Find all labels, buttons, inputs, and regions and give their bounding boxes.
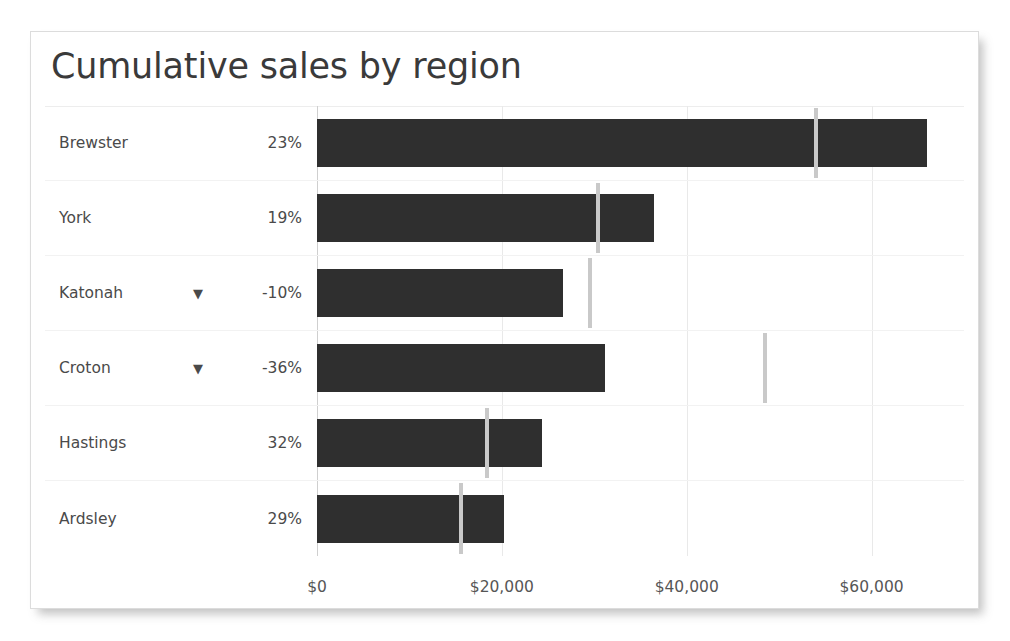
row-delta-value: -10% — [230, 284, 302, 302]
table-row[interactable]: Ardsley29% — [45, 481, 964, 556]
x-tick-label: $40,000 — [655, 578, 719, 596]
bar-track — [317, 256, 964, 330]
table-row[interactable]: Katonah▼-10% — [45, 256, 964, 331]
page-title: Cumulative sales by region — [51, 46, 522, 86]
table-row[interactable]: Brewster23% — [45, 106, 964, 181]
bar-hastings[interactable] — [317, 419, 542, 467]
table-row[interactable]: Croton▼-36% — [45, 331, 964, 406]
screenshot-root: Cumulative sales by region Brewster23%Yo… — [0, 0, 1010, 641]
trend-down-arrow-icon: ▼ — [193, 287, 203, 300]
bar-brewster[interactable] — [317, 119, 927, 167]
row-delta-value: -36% — [230, 359, 302, 377]
target-marker-ardsley — [459, 483, 463, 554]
row-label-brewster: Brewster — [59, 134, 128, 152]
row-delta-value: 23% — [230, 134, 302, 152]
row-label-ardsley: Ardsley — [59, 510, 117, 528]
bar-track — [317, 181, 964, 255]
table-row[interactable]: Hastings32% — [45, 406, 964, 481]
table-row[interactable]: York19% — [45, 181, 964, 256]
target-marker-croton — [763, 333, 767, 403]
row-delta-value: 32% — [230, 434, 302, 452]
x-tick-label: $0 — [307, 578, 327, 596]
bar-track — [317, 331, 964, 405]
bar-track — [317, 106, 964, 180]
x-tick-label: $60,000 — [840, 578, 904, 596]
bar-york[interactable] — [317, 194, 654, 242]
target-marker-hastings — [485, 408, 489, 478]
row-label-hastings: Hastings — [59, 434, 126, 452]
bar-ardsley[interactable] — [317, 495, 504, 543]
row-label-croton: Croton — [59, 359, 111, 377]
chart-card: Cumulative sales by region Brewster23%Yo… — [30, 31, 979, 609]
row-delta-value: 19% — [230, 209, 302, 227]
x-axis: $0$20,000$40,000$60,000 — [317, 556, 964, 616]
bar-track — [317, 406, 964, 480]
row-delta-value: 29% — [230, 510, 302, 528]
bar-rows: Brewster23%York19%Katonah▼-10%Croton▼-36… — [45, 106, 964, 556]
row-label-katonah: Katonah — [59, 284, 123, 302]
x-tick-label: $20,000 — [470, 578, 534, 596]
target-marker-york — [596, 183, 600, 253]
bar-croton[interactable] — [317, 344, 605, 392]
bar-track — [317, 481, 964, 556]
row-label-york: York — [59, 209, 91, 227]
target-marker-katonah — [588, 258, 592, 328]
chart-plot-area: Brewster23%York19%Katonah▼-10%Croton▼-36… — [45, 106, 964, 600]
bar-katonah[interactable] — [317, 269, 563, 317]
target-marker-brewster — [814, 108, 818, 178]
trend-down-arrow-icon: ▼ — [193, 362, 203, 375]
